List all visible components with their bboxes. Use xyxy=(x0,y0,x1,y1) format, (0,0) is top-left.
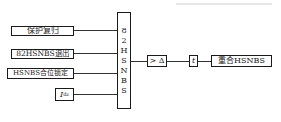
output-label: 重合HSNBS xyxy=(218,57,265,65)
input-label: 保护复归 xyxy=(27,27,59,35)
threshold-block: > Δ xyxy=(147,55,167,67)
block-char: S xyxy=(121,86,126,96)
connector-line xyxy=(131,61,147,62)
connector-line xyxy=(74,94,118,95)
input-protection-reset: 保护复归 xyxy=(11,26,74,36)
output-reclose-hsnbs: 重合HSNBS xyxy=(211,55,272,67)
connector-line xyxy=(167,61,189,62)
logic-block-82hsnbs: 8 2 H S N B S xyxy=(117,12,131,109)
input-82hsnbs-exit: 82HSNBS退出 xyxy=(11,49,74,59)
cropped-caption-fragment xyxy=(176,3,272,5)
block-char: 8 xyxy=(121,26,126,36)
input-label: HSNBS合位锁定 xyxy=(13,70,68,77)
block-char: 2 xyxy=(121,36,126,46)
block-char: N xyxy=(121,66,128,76)
block-char: H xyxy=(121,46,128,56)
input-label: 82HSNBS退出 xyxy=(16,50,68,58)
threshold-label: > Δ xyxy=(149,57,164,65)
current-subscript: dz xyxy=(63,92,69,97)
connector-line xyxy=(74,73,118,74)
connector-line xyxy=(198,61,211,62)
block-char: B xyxy=(121,76,127,86)
block-char: S xyxy=(121,56,126,66)
input-current-setting: Idz xyxy=(55,88,74,101)
timer-block: t xyxy=(189,55,198,67)
connector-line xyxy=(74,53,118,54)
connector-line xyxy=(74,30,118,31)
input-hsnbs-closed-lock: HSNBS合位锁定 xyxy=(7,68,74,79)
timer-label: t xyxy=(192,57,195,65)
